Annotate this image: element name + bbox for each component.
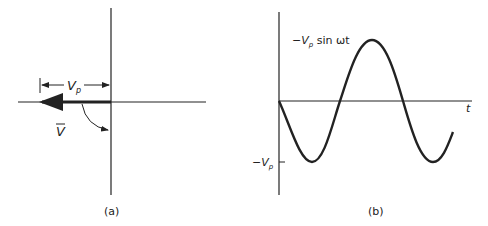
phasor-diagram: Vp V (a) bbox=[18, 8, 206, 218]
caption-b: (b) bbox=[368, 205, 384, 218]
magnitude-label: Vp bbox=[67, 78, 81, 95]
rotation-arc bbox=[82, 104, 108, 130]
phasor-label: V bbox=[56, 124, 66, 139]
figure-canvas: Vp V (a) −Vp sin ωt −Vp t (b) bbox=[0, 0, 488, 226]
curve-label: −Vp sin ωt bbox=[292, 34, 350, 49]
time-axis-label: t bbox=[466, 102, 471, 115]
caption-a: (a) bbox=[104, 205, 119, 218]
neg-peak-label: −Vp bbox=[252, 156, 274, 171]
waveform-diagram: −Vp sin ωt −Vp t (b) bbox=[252, 12, 472, 218]
